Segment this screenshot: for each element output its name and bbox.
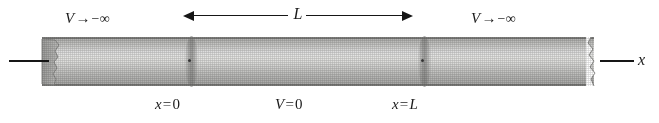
label-potential-right-symbol: V [471,10,480,26]
label-x-equals-0: x=0 [155,97,180,112]
label-x-equals-0-value: 0 [173,96,181,112]
label-potential-left-symbol: V [65,10,74,26]
axis-line-right-leader [600,60,634,62]
dimension-line-right [306,15,405,16]
label-x-equals-L: x=L [392,97,418,112]
label-x-equals-L-value: L [410,96,419,112]
label-v-equals-0: V=0 [275,97,303,112]
label-v-equals-0-operator: = [284,96,295,112]
label-x-equals-L-symbol: x [392,96,399,112]
label-v-equals-0-value: 0 [295,96,303,112]
dimension-label-L: L [289,6,308,22]
label-potential-left-value: −∞ [92,11,110,26]
cylinder-top-contour [42,37,594,39]
label-potential-right-value: −∞ [498,11,516,26]
cylinder-right-torn-end-icon [586,35,604,88]
label-potential-right: V→−∞ [471,11,516,26]
label-x-equals-L-operator: = [399,96,410,112]
cylinder-body [42,37,594,86]
label-x-equals-0-operator: = [162,96,173,112]
axis-label-x: x [638,52,645,68]
arrowhead-right-icon [402,11,413,21]
label-potential-right-arrow: → [480,10,497,26]
dimension-arrow-L: L [183,9,413,23]
label-potential-left: V→−∞ [65,11,110,26]
axis-line-left-stub [9,60,49,62]
label-v-equals-0-symbol: V [275,96,284,112]
cylinder-graphic [42,37,594,86]
label-potential-left-arrow: → [74,10,91,26]
cylinder-bottom-contour [42,84,594,86]
cylinder-left-torn-end-icon [41,36,64,87]
label-x-equals-0-symbol: x [155,96,162,112]
dimension-line-left [191,15,288,16]
physics-figure-infinite-well: V→−∞ L V→−∞ x x=0 V=0 x=L [0,0,659,123]
